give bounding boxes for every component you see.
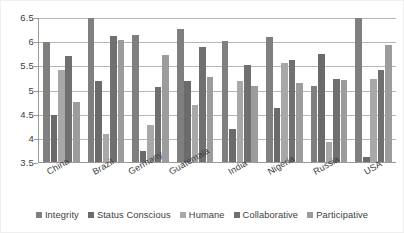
bar — [251, 86, 258, 162]
bar — [318, 54, 325, 162]
bar-group — [128, 18, 173, 162]
y-tick-label: 5 — [12, 85, 34, 96]
bar — [132, 35, 139, 162]
y-tick-label: 6.5 — [12, 12, 34, 23]
bar — [237, 81, 244, 162]
bar — [95, 81, 102, 162]
x-label-cell: Germany — [128, 164, 173, 204]
x-label-cell: India — [217, 164, 262, 204]
bar — [65, 56, 72, 162]
legend-swatch-icon — [234, 212, 240, 218]
legend-item[interactable]: Collaborative — [234, 210, 299, 220]
bar-groups — [39, 18, 396, 162]
bar — [110, 36, 117, 162]
category-tick — [84, 162, 85, 163]
bar — [341, 80, 348, 162]
bar — [385, 45, 392, 162]
category-tick — [307, 162, 308, 163]
category-tick — [262, 162, 263, 163]
bar — [177, 29, 184, 162]
bar — [333, 79, 340, 162]
legend-swatch-icon — [88, 212, 94, 218]
y-tick-label: 6 — [12, 36, 34, 47]
bar — [266, 37, 273, 162]
y-tick-mark — [34, 42, 38, 43]
legend-item[interactable]: Participative — [307, 210, 368, 220]
bar — [51, 115, 58, 162]
bar — [73, 102, 80, 162]
bar — [289, 60, 296, 162]
x-label-cell: Nigeria — [262, 164, 307, 204]
category-tick — [128, 162, 129, 163]
y-tick-label: 3.5 — [12, 157, 34, 168]
chart-legend: IntegrityStatus ConsciousHumaneCollabora… — [0, 210, 404, 220]
bar — [58, 70, 65, 162]
bar — [229, 129, 236, 162]
x-label-cell: Guatemala — [172, 164, 217, 204]
x-label-cell: USA — [351, 164, 396, 204]
bar — [296, 83, 303, 162]
bar-group — [218, 18, 263, 162]
bar-group — [84, 18, 129, 162]
legend-label: Status Conscious — [97, 210, 171, 220]
bar — [311, 86, 318, 162]
bar-group — [262, 18, 307, 162]
bar — [222, 41, 229, 162]
legend-item[interactable]: Humane — [180, 210, 225, 220]
legend-swatch-icon — [180, 212, 186, 218]
bar — [363, 157, 370, 162]
legend-label: Participative — [316, 210, 368, 220]
legend-label: Collaborative — [243, 210, 299, 220]
bar-group — [39, 18, 84, 162]
x-axis-labels: ChinaBrazilGermanyGuatemalaIndiaNigeriaR… — [38, 164, 396, 204]
bar — [43, 42, 50, 162]
y-tick-mark — [34, 139, 38, 140]
x-label-cell: China — [38, 164, 83, 204]
legend-label: Humane — [189, 210, 225, 220]
x-label-cell: Russia — [307, 164, 352, 204]
plot-area — [38, 18, 396, 163]
category-tick — [218, 162, 219, 163]
legend-label: Integrity — [45, 210, 79, 220]
bar — [184, 81, 191, 162]
x-label-cell: Brazil — [83, 164, 128, 204]
bar-group — [307, 18, 352, 162]
bar — [244, 65, 251, 162]
y-tick-mark — [34, 91, 38, 92]
y-tick-mark — [34, 115, 38, 116]
legend-swatch-icon — [36, 212, 42, 218]
bar — [274, 108, 281, 162]
bar — [162, 55, 169, 162]
bar-chart: 6.565.554.543.5 ChinaBrazilGermanyGuatem… — [0, 0, 404, 233]
bar — [378, 70, 385, 162]
category-tick — [351, 162, 352, 163]
bar — [370, 79, 377, 162]
legend-item[interactable]: Integrity — [36, 210, 79, 220]
bar-group — [173, 18, 218, 162]
y-tick-label: 4 — [12, 133, 34, 144]
y-tick-mark — [34, 66, 38, 67]
bar — [281, 63, 288, 162]
bar — [118, 40, 125, 162]
legend-swatch-icon — [307, 212, 313, 218]
y-tick-mark — [34, 18, 38, 19]
y-tick-label: 5.5 — [12, 60, 34, 71]
bar — [88, 18, 95, 162]
y-tick-label: 4.5 — [12, 109, 34, 120]
bar — [355, 18, 362, 162]
bar-group — [351, 18, 396, 162]
legend-item[interactable]: Status Conscious — [88, 210, 171, 220]
plot-wrapper — [38, 18, 396, 163]
